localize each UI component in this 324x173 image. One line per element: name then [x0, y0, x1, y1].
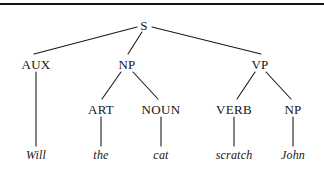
tree-leaf-the: the	[93, 149, 108, 162]
edge-group	[34, 27, 293, 146]
tree-node-aux: AUX	[21, 58, 50, 71]
tree-edge-np1-noun	[133, 72, 158, 99]
tree-node-art: ART	[88, 103, 114, 116]
tree-node-np2: NP	[284, 103, 301, 116]
tree-leaf-john: John	[281, 149, 305, 162]
tree-edge-vp-verb	[237, 72, 255, 99]
tree-node-s: S	[140, 19, 148, 32]
tree-edge-s-vp	[152, 27, 261, 54]
tree-edge-s-aux	[34, 27, 137, 54]
tree-edge-np1-art	[102, 72, 121, 99]
tree-leaf-will: Will	[26, 149, 46, 162]
tree-edge-vp-np2	[266, 72, 291, 99]
tree-node-vp: VP	[251, 58, 268, 71]
tree-leaf-cat: cat	[153, 149, 168, 162]
tree-leaf-scratch: scratch	[216, 149, 253, 162]
tree-node-noun: NOUN	[142, 103, 181, 116]
tree-edge-s-np1	[128, 32, 142, 54]
parse-tree-figure: SAUXNPVPARTNOUNVERBNPWillthecatscratchJo…	[0, 0, 324, 173]
tree-node-np1: NP	[118, 58, 135, 71]
tree-node-verb: VERB	[216, 103, 252, 116]
